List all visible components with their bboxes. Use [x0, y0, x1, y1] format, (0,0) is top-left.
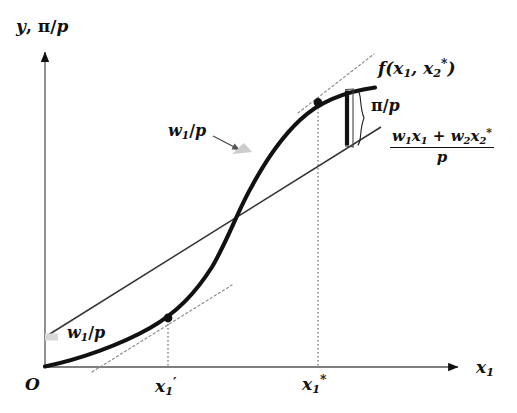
tangent-line-at-x1-star	[298, 54, 374, 113]
y-axis-label: y, π/p	[16, 18, 68, 35]
intercept-marker	[45, 334, 58, 341]
production-function-label: f(x1, x2*)	[378, 58, 456, 79]
profit-maximisation-diagram: y, π/p x1 O x1′ x1* f(x1, x2*) π/p w1/p …	[0, 0, 517, 413]
profit-brace	[358, 91, 364, 145]
slope-label-w1-over-p: w1/p	[168, 123, 206, 141]
slope-annotation-pointer-group	[213, 136, 252, 154]
profit-segment-cap-top	[345, 89, 354, 90]
x-tick-label-x1-star: x1*	[302, 374, 326, 395]
slope-annotation-leader-line	[213, 136, 240, 150]
isocost-line	[45, 127, 381, 337]
intercept-label-w1-over-p: w1/p	[67, 325, 105, 343]
tangency-point-x1-star	[314, 98, 323, 107]
profit-label: π/p	[371, 98, 400, 114]
profit-segment-group	[345, 89, 364, 147]
cost-line-group	[45, 127, 381, 341]
isocost-numerator: w1x1 + w2x2*	[390, 128, 494, 148]
origin-label: O	[25, 376, 40, 393]
tangency-point-x1-prime	[164, 314, 173, 323]
slope-annotation-wedge	[232, 143, 252, 154]
x-tick-label-x1-prime: x1′	[155, 376, 177, 397]
isocost-denominator: p	[390, 148, 494, 165]
tangent-lines-group	[92, 54, 374, 372]
x-axis-label: x1	[476, 359, 494, 378]
isocost-line-label: w1x1 + w2x2* p	[390, 128, 494, 165]
droplines-group	[168, 104, 318, 366]
tangent-line-at-x1-prime	[92, 285, 232, 372]
